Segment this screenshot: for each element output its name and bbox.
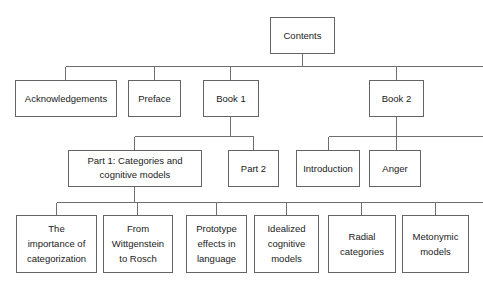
node-prototype-line1: Prototype [196, 223, 237, 234]
node-importance-line3: categorization [27, 253, 86, 264]
node-radial-categories-box[interactable] [329, 216, 396, 273]
node-contents-label: Contents [283, 30, 321, 41]
node-wittgenstein-to-rosch[interactable]: From Wittgenstein to Rosch [104, 216, 173, 273]
node-prototype-line3: language [197, 253, 236, 264]
connector-group [57, 54, 483, 216]
node-part1-label-line2: cognitive models [100, 169, 171, 180]
node-book1[interactable]: Book 1 [204, 81, 259, 117]
node-acknowledgements-label: Acknowledgements [25, 93, 108, 104]
node-prototype-line2: effects in [198, 238, 236, 249]
node-wittgenstein-line3: to Rosch [119, 253, 157, 264]
node-acknowledgements[interactable]: Acknowledgements [16, 81, 117, 117]
node-part2[interactable]: Part 2 [229, 151, 279, 187]
node-preface-label: Preface [138, 93, 171, 104]
node-radial-line2: categories [340, 246, 384, 257]
node-metonymic-line1: Metonymic [413, 231, 459, 242]
node-importance-line2: importance of [28, 238, 86, 249]
node-idealized-line3: models [271, 253, 302, 264]
node-part1-label-line1: Part 1: Categories and [87, 155, 182, 166]
node-idealized-line2: cognitive [268, 238, 306, 249]
node-contents[interactable]: Contents [271, 18, 335, 54]
node-metonymic-models-box[interactable] [403, 216, 469, 273]
node-importance-of-categorization[interactable]: The importance of categorization [17, 216, 97, 273]
node-idealized-cognitive-models[interactable]: Idealized cognitive models [255, 216, 319, 273]
node-introduction[interactable]: Introduction [297, 151, 360, 187]
node-metonymic-models[interactable]: Metonymic models [403, 216, 469, 273]
node-importance-line1: The [48, 223, 64, 234]
tree-diagram-canvas: Contents Acknowledgements Preface Book 1… [0, 0, 483, 286]
node-part1[interactable]: Part 1: Categories and cognitive models [69, 151, 202, 187]
node-wittgenstein-line1: From [127, 223, 149, 234]
node-preface[interactable]: Preface [129, 81, 181, 117]
node-book1-label: Book 1 [216, 93, 246, 104]
node-radial-line1: Radial [349, 231, 376, 242]
node-radial-categories[interactable]: Radial categories [329, 216, 396, 273]
node-book2[interactable]: Book 2 [370, 81, 424, 117]
node-wittgenstein-line2: Wittgenstein [112, 238, 164, 249]
node-part2-label: Part 2 [241, 163, 266, 174]
node-book2-label: Book 2 [382, 93, 412, 104]
node-anger-label: Anger [382, 163, 407, 174]
node-introduction-label: Introduction [303, 163, 353, 174]
tree-diagram: Contents Acknowledgements Preface Book 1… [0, 0, 483, 286]
node-anger[interactable]: Anger [370, 151, 421, 187]
node-idealized-line1: Idealized [267, 223, 305, 234]
node-metonymic-line2: models [420, 246, 451, 257]
node-prototype-effects-in-language[interactable]: Prototype effects in language [187, 216, 247, 273]
